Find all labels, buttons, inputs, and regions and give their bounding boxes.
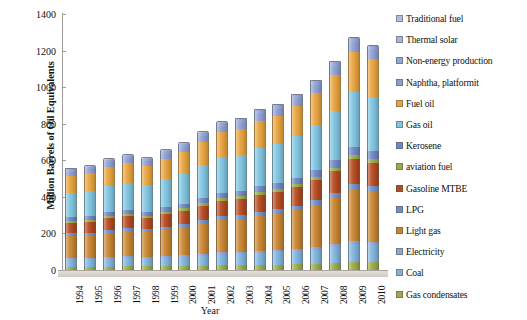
bar-segment[interactable] (367, 242, 379, 245)
bar-segment[interactable] (141, 161, 153, 165)
bar-segment[interactable] (235, 252, 247, 254)
bar-segment[interactable] (141, 212, 153, 216)
bar-segment[interactable] (235, 155, 247, 191)
bar-column[interactable] (254, 109, 266, 270)
bar-segment[interactable] (348, 92, 360, 147)
bar-segment[interactable] (348, 190, 360, 241)
bar-column[interactable] (141, 157, 153, 270)
bar-segment[interactable] (84, 191, 96, 216)
bar-segment[interactable] (84, 220, 96, 222)
bar-segment[interactable] (254, 253, 266, 265)
bar-segment[interactable] (103, 186, 115, 213)
bar-segment[interactable] (235, 199, 247, 215)
bar-segment[interactable] (160, 179, 172, 208)
bar-segment[interactable] (197, 136, 209, 141)
bar-segment[interactable] (122, 163, 134, 183)
bar-segment[interactable] (272, 109, 284, 116)
bar-segment[interactable] (216, 201, 228, 217)
bar-segment[interactable] (178, 147, 190, 152)
bar-segment[interactable] (197, 206, 209, 220)
bar-segment[interactable] (272, 144, 284, 183)
bar-segment[interactable] (329, 75, 341, 110)
bar-segment[interactable] (310, 80, 322, 81)
bar-segment[interactable] (197, 165, 209, 198)
bar-segment[interactable] (291, 136, 303, 178)
bar-segment[interactable] (84, 169, 96, 173)
bar-segment[interactable] (178, 211, 190, 224)
bar-segment[interactable] (235, 215, 247, 219)
bar-segment[interactable] (178, 204, 190, 209)
bar-segment[interactable] (160, 212, 172, 214)
bar-segment[interactable] (272, 104, 284, 105)
bar-segment[interactable] (141, 216, 153, 218)
bar-segment[interactable] (310, 93, 322, 125)
legend-item[interactable]: Naphtha, platformit (396, 72, 527, 93)
bar-segment[interactable] (160, 149, 172, 150)
bar-segment[interactable] (178, 174, 190, 204)
bar-segment[interactable] (272, 189, 284, 192)
bar-segment[interactable] (160, 159, 172, 179)
bar-segment[interactable] (216, 193, 228, 198)
bar-segment[interactable] (160, 256, 172, 258)
bar-segment[interactable] (178, 255, 190, 257)
bar-segment[interactable] (160, 151, 172, 154)
bar-column[interactable] (216, 121, 228, 270)
bar-segment[interactable] (197, 256, 209, 266)
bar-segment[interactable] (197, 133, 209, 136)
bar-segment[interactable] (141, 257, 153, 259)
bar-segment[interactable] (65, 217, 77, 221)
bar-column[interactable] (310, 80, 322, 270)
bar-segment[interactable] (103, 158, 115, 160)
legend-item[interactable]: Kerosene (396, 135, 527, 156)
bar-column[interactable] (197, 131, 209, 270)
bar-segment[interactable] (254, 216, 266, 251)
bar-segment[interactable] (216, 123, 228, 127)
bar-segment[interactable] (348, 184, 360, 190)
bar-segment[interactable] (160, 230, 172, 256)
bar-segment[interactable] (254, 148, 266, 186)
bar-segment[interactable] (254, 212, 266, 216)
bar-segment[interactable] (310, 200, 322, 205)
bar-segment[interactable] (367, 151, 379, 159)
bar-segment[interactable] (65, 236, 77, 258)
bar-segment[interactable] (65, 169, 77, 172)
bar-segment[interactable] (84, 259, 96, 266)
bar-segment[interactable] (367, 186, 379, 192)
bar-segment[interactable] (367, 163, 379, 187)
bar-segment[interactable] (216, 216, 228, 220)
bar-segment[interactable] (65, 193, 77, 217)
bar-segment[interactable] (65, 233, 77, 236)
bar-segment[interactable] (122, 214, 134, 216)
bar-segment[interactable] (197, 203, 209, 205)
bar-segment[interactable] (348, 241, 360, 244)
bar-segment[interactable] (122, 258, 134, 266)
bar-segment[interactable] (178, 142, 190, 144)
bar-segment[interactable] (254, 192, 266, 195)
bar-segment[interactable] (65, 221, 77, 223)
bar-segment[interactable] (367, 50, 379, 59)
bar-segment[interactable] (329, 247, 341, 262)
bar-segment[interactable] (291, 249, 303, 252)
bar-segment[interactable] (235, 129, 247, 155)
bar-segment[interactable] (122, 183, 134, 210)
bar-segment[interactable] (65, 172, 77, 176)
bar-segment[interactable] (329, 171, 341, 193)
bar-segment[interactable] (254, 114, 266, 120)
bar-segment[interactable] (291, 251, 303, 264)
legend-item[interactable]: aviation fuel (396, 156, 527, 177)
bar-segment[interactable] (367, 59, 379, 97)
bar-segment[interactable] (310, 177, 322, 180)
bar-segment[interactable] (197, 220, 209, 223)
bar-segment[interactable] (84, 222, 96, 233)
bar-column[interactable] (329, 61, 341, 270)
bar-segment[interactable] (141, 258, 153, 266)
bar-segment[interactable] (235, 219, 247, 252)
bar-segment[interactable] (235, 191, 247, 196)
bar-segment[interactable] (291, 94, 303, 95)
bar-segment[interactable] (84, 258, 96, 259)
bar-segment[interactable] (122, 216, 134, 228)
bar-segment[interactable] (122, 231, 134, 256)
bar-column[interactable] (291, 94, 303, 270)
bar-segment[interactable] (329, 160, 341, 167)
bar-segment[interactable] (122, 156, 134, 159)
